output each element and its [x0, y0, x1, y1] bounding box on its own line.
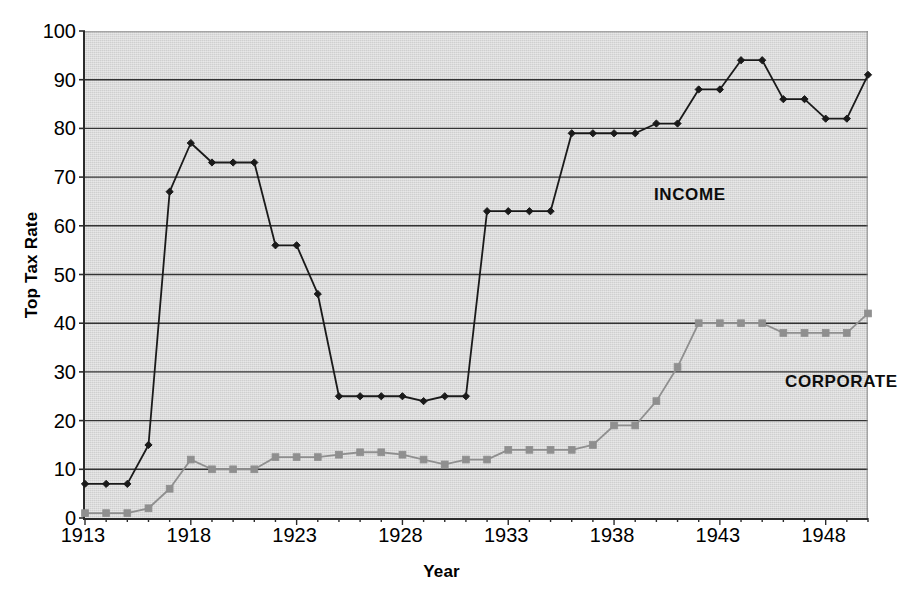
data-point-marker: [526, 446, 533, 453]
data-point-marker: [251, 466, 258, 473]
data-point-marker: [357, 449, 364, 456]
data-point-marker: [230, 466, 237, 473]
data-point-marker: [293, 454, 300, 461]
data-point-marker: [484, 456, 491, 463]
x-axis-title: Year: [0, 562, 883, 582]
data-point-marker: [759, 57, 766, 64]
data-point-marker: [674, 364, 681, 371]
data-point-marker: [780, 96, 787, 103]
data-point-marker: [695, 320, 702, 327]
data-point-marker: [822, 330, 829, 337]
data-point-marker: [462, 393, 469, 400]
y-tick-label: 100: [20, 21, 76, 41]
series-line-corporate: [85, 313, 868, 513]
data-point-marker: [272, 454, 279, 461]
data-point-marker: [864, 71, 871, 78]
data-point-marker: [526, 208, 533, 215]
series-income: [81, 57, 871, 488]
y-tick-label: 40: [20, 313, 76, 333]
y-tick-label: 50: [20, 265, 76, 285]
data-point-marker: [441, 461, 448, 468]
data-point-marker: [611, 422, 618, 429]
data-point-marker: [103, 510, 110, 517]
y-tick-label: 80: [20, 118, 76, 138]
data-point-marker: [547, 446, 554, 453]
x-tick-label: 1918: [144, 524, 234, 546]
x-tick-label: 1928: [355, 524, 445, 546]
data-point-marker: [441, 393, 448, 400]
x-tick-label: 1913: [38, 524, 128, 546]
data-point-marker: [293, 242, 300, 249]
data-point-marker: [843, 330, 850, 337]
data-point-marker: [632, 422, 639, 429]
data-point-marker: [505, 446, 512, 453]
data-point-marker: [716, 320, 723, 327]
data-point-marker: [272, 242, 279, 249]
data-point-marker: [738, 320, 745, 327]
data-point-marker: [378, 393, 385, 400]
data-point-marker: [568, 446, 575, 453]
data-point-marker: [865, 310, 872, 317]
data-point-marker: [166, 188, 173, 195]
series-annotation-corporate: CORPORATE: [785, 372, 898, 392]
data-point-marker: [314, 454, 321, 461]
plot-svg: [77, 31, 868, 528]
y-tick-label: 30: [20, 362, 76, 382]
data-point-marker: [801, 330, 808, 337]
data-point-marker: [230, 159, 237, 166]
data-point-marker: [780, 330, 787, 337]
data-point-marker: [632, 130, 639, 137]
y-axis-tick-labels: 0102030405060708090100: [14, 0, 76, 590]
data-point-marker: [589, 130, 596, 137]
x-tick-label: 1948: [779, 524, 869, 546]
data-point-marker: [653, 398, 660, 405]
data-point-marker: [759, 320, 766, 327]
data-point-marker: [209, 466, 216, 473]
data-point-marker: [357, 393, 364, 400]
data-point-marker: [314, 290, 321, 297]
data-point-marker: [187, 456, 194, 463]
data-point-marker: [103, 480, 110, 487]
data-point-marker: [145, 505, 152, 512]
data-point-marker: [251, 159, 258, 166]
data-point-marker: [82, 510, 89, 517]
data-point-marker: [568, 130, 575, 137]
x-axis-tick-labels: 19131918192319281933193819431948: [0, 524, 883, 558]
data-point-marker: [124, 480, 131, 487]
data-point-marker: [378, 449, 385, 456]
data-point-marker: [843, 115, 850, 122]
data-point-marker: [505, 208, 512, 215]
data-point-marker: [145, 441, 152, 448]
data-point-marker: [399, 451, 406, 458]
data-point-marker: [463, 456, 470, 463]
data-point-marker: [653, 120, 660, 127]
y-tick-label: 70: [20, 167, 76, 187]
data-point-marker: [420, 398, 427, 405]
y-tick-label: 20: [20, 411, 76, 431]
x-tick-label: 1938: [567, 524, 657, 546]
y-tick-label: 60: [20, 216, 76, 236]
data-point-marker: [335, 393, 342, 400]
x-tick-label: 1923: [250, 524, 340, 546]
data-point-marker: [589, 442, 596, 449]
data-point-marker: [81, 480, 88, 487]
series-annotation-income: INCOME: [654, 185, 726, 205]
y-tick-label: 10: [20, 459, 76, 479]
data-point-marker: [547, 208, 554, 215]
data-point-marker: [420, 456, 427, 463]
data-point-marker: [124, 510, 131, 517]
y-tick-label: 90: [20, 70, 76, 90]
data-point-marker: [399, 393, 406, 400]
data-point-marker: [166, 485, 173, 492]
data-point-marker: [483, 208, 490, 215]
data-point-marker: [336, 451, 343, 458]
plot-area: INCOME CORPORATE: [83, 31, 868, 520]
series-corporate: [82, 310, 872, 516]
data-point-marker: [610, 130, 617, 137]
x-tick-label: 1933: [461, 524, 551, 546]
x-tick-label: 1943: [673, 524, 763, 546]
